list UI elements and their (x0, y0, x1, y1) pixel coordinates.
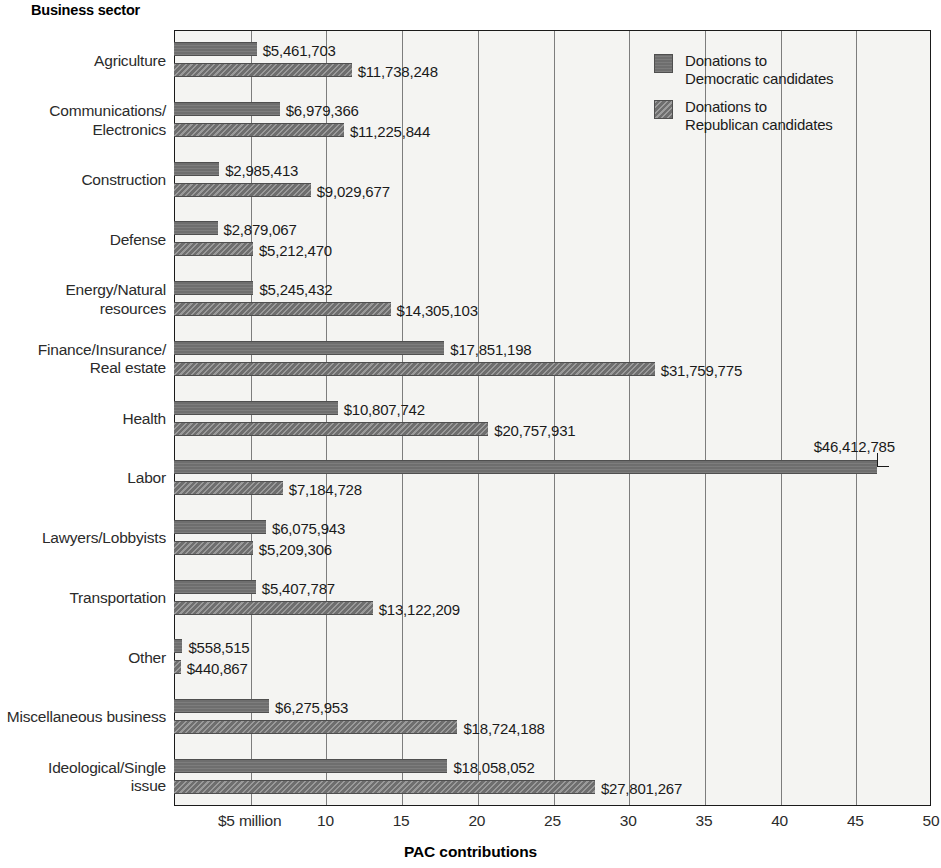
x-tick-label: 30 (620, 812, 637, 830)
x-tick-label: 15 (393, 812, 410, 830)
legend-label-democratic: Donations to Democratic candidates (685, 52, 833, 87)
legend-item-dem: Donations to Democratic candidates (654, 52, 924, 87)
x-tick-label: 50 (923, 812, 940, 830)
pac-contributions-chart: Business sector Agriculture$5,461,703$11… (0, 0, 941, 868)
x-tick-label: 40 (771, 812, 788, 830)
x-tick-label: 10 (317, 812, 334, 830)
legend-label-republican: Donations to Republican candidates (685, 98, 833, 133)
legend-item-rep: Donations to Republican candidates (654, 98, 924, 133)
chart-row (0, 269, 941, 329)
chart-row (0, 508, 941, 568)
x-tick-label: 35 (695, 812, 712, 830)
chart-row (0, 567, 941, 627)
chart-row (0, 687, 941, 747)
legend: Donations to Democratic candidates Donat… (654, 52, 924, 144)
x-tick-label: 45 (847, 812, 864, 830)
chart-row (0, 448, 941, 508)
x-tick-label: $5 million (218, 812, 281, 830)
x-axis-title: PAC contributions (0, 843, 941, 861)
chart-row (0, 209, 941, 269)
chart-row (0, 328, 941, 388)
legend-swatch-democratic-icon (654, 54, 673, 73)
chart-row (0, 388, 941, 448)
chart-row (0, 746, 941, 806)
chart-row (0, 149, 941, 209)
legend-swatch-republican-icon (654, 100, 673, 119)
chart-row (0, 627, 941, 687)
x-tick-label: 20 (468, 812, 485, 830)
x-tick-label: 25 (544, 812, 561, 830)
